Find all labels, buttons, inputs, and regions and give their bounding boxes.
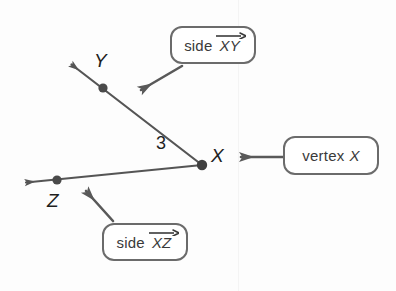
ray-xz xyxy=(26,165,202,185)
ray-xy-line xyxy=(72,65,203,166)
callout-side-xz-text: side XZ xyxy=(117,234,174,251)
callout-side-xz-symbol: XZ xyxy=(150,234,174,251)
geometry-diagram-figure: Y X Z 3 side XY vertex X side xyxy=(0,0,396,291)
ray-xz-line xyxy=(26,165,202,183)
ray-xy xyxy=(72,65,203,166)
point-label-y: Y xyxy=(94,50,107,72)
point-label-z: Z xyxy=(47,190,59,212)
callout-pointer-side-xz xyxy=(86,191,113,221)
callout-vertex-x-symbol: X xyxy=(349,147,359,164)
callout-vertex-x-text: vertex X xyxy=(302,147,359,164)
point-y-dot xyxy=(98,83,107,92)
callout-side-xy-text: side XY xyxy=(184,37,242,54)
callout-side-xy-symbol-text: XY xyxy=(219,37,239,54)
callout-side-xy: side XY xyxy=(170,26,256,64)
point-label-x: X xyxy=(211,145,224,167)
callout-side-xz: side XZ xyxy=(102,223,188,261)
callout-vertex-x: vertex X xyxy=(283,136,379,175)
vertex-x-dot xyxy=(197,160,207,170)
callout-side-xy-symbol: XY xyxy=(217,37,241,54)
callout-side-xz-prefix: side xyxy=(117,234,145,251)
callout-side-xy-prefix: side xyxy=(184,37,212,54)
callout-side-xz-symbol-text: XZ xyxy=(152,234,172,251)
callout-pointer-side-xy xyxy=(141,66,182,90)
segment-length-label: 3 xyxy=(156,133,166,154)
callout-vertex-x-prefix: vertex xyxy=(302,147,344,164)
point-z-dot xyxy=(52,175,61,184)
